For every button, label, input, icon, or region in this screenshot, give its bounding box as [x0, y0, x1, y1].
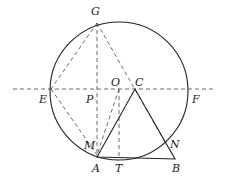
- label-e: E: [38, 93, 47, 106]
- line-om: [97, 89, 119, 155]
- label-c: C: [135, 76, 144, 89]
- geometry-diagram: G E P O C F M N A T B: [0, 0, 226, 180]
- line-ge: [51, 23, 97, 89]
- label-t: T: [115, 162, 124, 175]
- label-o: O: [111, 76, 120, 89]
- label-a: A: [91, 162, 100, 175]
- label-b: B: [171, 162, 180, 175]
- label-m: M: [83, 139, 96, 152]
- label-f: F: [191, 93, 200, 106]
- triangle-abc: [97, 89, 175, 159]
- label-n: N: [169, 138, 180, 151]
- label-g: G: [91, 5, 100, 18]
- label-p: P: [85, 93, 94, 106]
